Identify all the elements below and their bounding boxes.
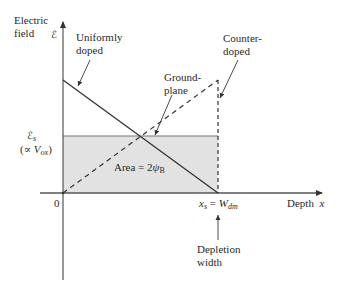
origin-label: 0 [54, 197, 60, 210]
x-axis-label-text: Depth [287, 197, 314, 209]
y-axis-label-line1: Electric [14, 14, 48, 27]
es-prop-suffix: ) [48, 143, 52, 155]
counter-doped-line2: doped [223, 45, 262, 58]
origin-point [62, 192, 64, 194]
y-axis-label-line2: field [14, 27, 48, 40]
wdm-symbol: W [219, 197, 228, 209]
depletion-width-label: Depletion width [197, 243, 240, 269]
area-label: Area = 2ψB [114, 161, 165, 177]
es-proportional-label: (∝ Vox) [20, 143, 52, 159]
depletion-width-line2: width [197, 256, 240, 269]
y-axis-label: Electric field [14, 14, 48, 40]
y-axis-symbol: ℰ [51, 28, 57, 41]
es-prop-prefix: (∝ [20, 143, 34, 155]
uniformly-doped-pointer [78, 60, 90, 86]
es-prop-var: V [34, 143, 41, 155]
wdm-subscript: dm [228, 202, 238, 211]
ground-plane-label: Ground- plane [164, 71, 201, 97]
ground-plane-pointer [155, 95, 172, 135]
es-subscript: s [33, 134, 36, 143]
xs-equals: = [207, 197, 219, 209]
depletion-width-line1: Depletion [197, 243, 240, 256]
uniformly-doped-line2: doped [76, 44, 122, 57]
area-sub: B [159, 166, 164, 175]
xs-wdm-label: xs = Wdm [199, 197, 238, 213]
uniformly-doped-line1: Uniformly [76, 31, 122, 44]
x-axis-label: Depth x [287, 197, 324, 210]
area-label-prefix: Area = 2 [114, 161, 153, 173]
ground-plane-line1: Ground- [164, 71, 201, 84]
ground-plane-line2: plane [164, 84, 201, 97]
counter-doped-label: Counter- doped [223, 32, 262, 58]
uniformly-doped-label: Uniformly doped [76, 31, 122, 57]
counter-doped-pointer [220, 60, 238, 98]
x-axis-symbol: x [319, 197, 324, 209]
counter-doped-line1: Counter- [223, 32, 262, 45]
